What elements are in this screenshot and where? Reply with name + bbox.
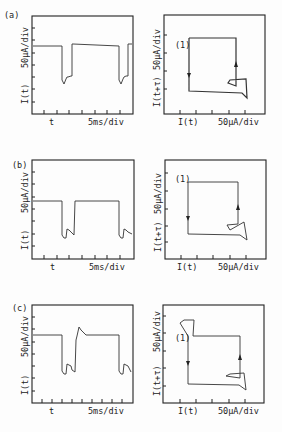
panel-b-phase-yscale: 50μA/div [153,173,163,214]
figure-canvas: (a) 50μA/div I(t) t 5ms/div (1) 50μA/div… [0,0,282,432]
panel-a-down-arrow-icon [187,73,191,78]
panel-b-phase-cycle [188,182,247,240]
panel-c-time-xscale: 5ms/div [88,406,124,416]
panel-a-time-ylabel: I(t) [20,84,30,104]
panel-c-phase-annotation: (1) [175,333,190,343]
panel-a-time-yscale: 50μA/div [20,27,30,68]
panel-a-phase-annotation: (1) [175,40,190,50]
panel-b-time-trace [33,201,132,238]
panel-a-up-arrow-icon [234,61,238,67]
panel-a-phase-portrait: (1) 50μA/div I(t+τ) I(t) 50μA/div [152,15,265,127]
panel-c-time-yscale: 50μA/div [20,316,30,357]
panel-b-phase-portrait: (1) 50μA/div I(t+τ) I(t) 50μA/div [153,160,266,272]
panel-c-phase-portrait: (1) 50μA/div I(t+τ) I(t) 50μA/div [152,305,264,416]
panel-b-phase-ylabel: I(t+τ) [153,221,163,252]
panel-c-label: (c) [12,303,27,313]
panel-c-phase-ylabel: I(t+τ) [152,365,162,396]
panel-b-time-ylabel: I(t) [20,230,30,250]
panel-b-time-series: (b) 50μA/div I(t) t 5ms/div [12,160,134,272]
panel-a-phase-cycle [189,38,247,98]
panel-a-time-series: (a) 50μA/div I(t) t 5ms/div [4,10,133,127]
panel-c-time-trace [33,327,131,374]
panel-c-down-arrow-icon [186,361,190,366]
panel-a-phase-ylabel: I(t+τ) [152,76,162,107]
panel-c-time-ylabel: I(t) [20,375,30,395]
panel-b-up-arrow-icon [236,204,240,210]
panel-c-time-series: (c) 50μA/div I(t) t 5ms/div [12,303,133,416]
panel-c-phase-xscale: 50μA/div [218,406,259,416]
panel-c-phase-xlabel: I(t) [178,406,198,416]
panel-c-up-arrow-icon [238,354,242,360]
panel-a-time-frame [32,16,133,114]
panel-a-phase-xlabel: I(t) [178,117,198,127]
panel-a-phase-yscale: 50μA/div [152,29,162,70]
panel-b-down-arrow-icon [186,216,190,221]
panel-c-time-xlabel: t [49,406,54,416]
panel-b-phase-xscale: 50μA/div [218,262,259,272]
panel-a-time-xlabel: t [49,117,54,127]
panel-b-phase-annotation: (1) [175,174,190,184]
panel-a-phase-frame [164,15,265,114]
panel-a-time-trace [33,44,132,84]
panel-c-phase-cycle [188,336,246,390]
panel-a-phase-xscale: 50μA/div [218,117,259,127]
panel-c-time-frame [32,305,133,403]
panel-a-time-xscale: 5ms/div [88,117,124,127]
panel-c-phase-frame [163,305,264,403]
panel-a-label: (a) [4,10,19,20]
panel-b-time-xlabel: t [50,262,55,272]
panel-b-phase-xlabel: I(t) [177,262,197,272]
panel-b-time-xscale: 5ms/div [89,262,125,272]
panel-b-time-yscale: 50μA/div [20,172,30,213]
panel-c-phase-yscale: 50μA/div [152,311,162,352]
panel-b-label: (b) [12,160,27,170]
